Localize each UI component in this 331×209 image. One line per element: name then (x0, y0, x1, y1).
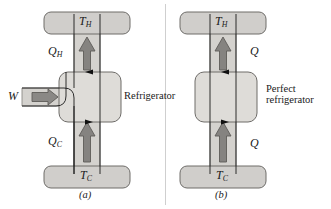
heat-in-label: QC (48, 135, 62, 150)
perfect-refrigerator-name-label: Perfect refrigerator (266, 83, 314, 106)
cold-reservoir-label: TC (216, 169, 228, 184)
hot-reservoir-label: TH (215, 15, 227, 30)
panel-b: TH TC Q Q Perfect refrigerator (b) (166, 0, 331, 209)
panel-a: TH TC QH QC W Refrigerator (a) (0, 0, 166, 209)
device-name-line-1: Perfect (266, 83, 314, 94)
heat-out-label: QH (48, 45, 62, 60)
panel-b-caption: (b) (215, 189, 227, 200)
heat-in-label: Q (250, 137, 259, 150)
refrigerator-box (59, 72, 121, 122)
heat-out-label: Q (250, 45, 259, 58)
work-input-label: W (8, 90, 18, 103)
cold-reservoir-label: TC (80, 169, 92, 184)
hot-reservoir-label: TH (79, 15, 91, 30)
panel-a-caption: (a) (79, 189, 91, 200)
device-name-line-2: refrigerator (266, 94, 314, 105)
refrigerator-figure: TH TC QH QC W Refrigerator (a) (0, 0, 331, 209)
perfect-refrigerator-box (195, 72, 257, 122)
